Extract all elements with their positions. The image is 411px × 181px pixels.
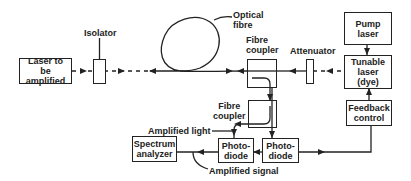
fibre-coupler-bottom-line1: Fibre	[213, 101, 246, 111]
spectrum-analyzer-line1: Spectrum	[134, 139, 176, 149]
feedback-control-line2: control	[354, 113, 385, 123]
attenuator-box	[306, 59, 314, 84]
attenuator-label: Attenuator	[290, 46, 336, 56]
tunable-laser-line1: Tunable	[351, 57, 385, 67]
fibre-coupler-bottom-box	[248, 100, 277, 128]
laser-label-line2: be amplified	[20, 66, 71, 86]
spectrum-analyzer-box: Spectrum analyzer	[132, 136, 177, 162]
fibre-coupler-top-line2: coupler	[246, 45, 279, 55]
amplified-signal-label: Amplified signal	[209, 166, 279, 176]
feedback-control-box: Feedback control	[346, 100, 392, 126]
fibre-coupler-top-line1: Fibre	[246, 35, 279, 45]
tunable-laser-line3: (dye)	[357, 77, 379, 87]
spectrum-analyzer-line2: analyzer	[136, 149, 172, 159]
photodiode-right-line1: Photo-	[266, 141, 295, 151]
photodiode-left-line1: Photo-	[222, 141, 251, 151]
fibre-amplifier-diagram: Laser to be amplified Isolator Optical f…	[0, 0, 411, 181]
isolator-box	[93, 59, 106, 84]
optical-fibre-line1: Optical	[233, 10, 264, 20]
feedback-control-line1: Feedback	[348, 103, 390, 113]
tunable-laser-line2: laser	[357, 67, 378, 77]
pump-laser-line2: laser	[357, 29, 378, 39]
optical-fibre-label: Optical fibre	[233, 10, 264, 30]
pump-laser-box: Pump laser	[344, 12, 392, 45]
photodiode-right-line2: diode	[269, 151, 293, 161]
photodiode-left-box: Photo- diode	[218, 138, 254, 163]
photodiode-left-line2: diode	[224, 151, 248, 161]
fibre-coupler-bottom-label: Fibre coupler	[213, 101, 246, 121]
fibre-coupler-bottom-line2: coupler	[213, 111, 246, 121]
photodiode-right-box: Photo- diode	[262, 138, 299, 163]
laser-label-line1: Laser to	[28, 56, 63, 66]
isolator-label: Isolator	[84, 28, 117, 38]
fibre-coupler-top-label: Fibre coupler	[246, 35, 279, 55]
laser-to-be-amplified-box: Laser to be amplified	[19, 58, 72, 84]
tunable-laser-box: Tunable laser (dye)	[344, 55, 392, 89]
fibre-coupler-top-box	[247, 59, 277, 88]
pump-laser-line1: Pump	[355, 19, 380, 29]
optical-fibre-line2: fibre	[233, 20, 264, 30]
amplified-light-label: Amplified light	[148, 126, 211, 136]
